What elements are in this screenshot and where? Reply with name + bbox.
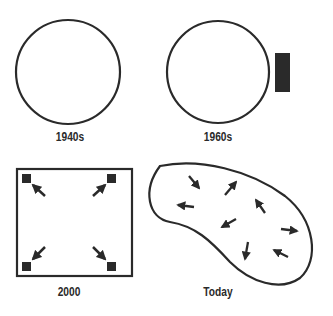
label-2000: 2000 xyxy=(58,285,81,299)
label-today: Today xyxy=(203,285,232,299)
panel-1960s-circle xyxy=(167,21,269,123)
panel-2000-arrows xyxy=(33,185,105,259)
panel-1960s-external-block xyxy=(275,53,290,92)
evolution-diagram xyxy=(0,0,333,316)
panel-1940s-circle xyxy=(16,20,120,124)
label-1940s: 1940s xyxy=(56,130,84,144)
panel-today-arrows xyxy=(178,176,297,259)
label-1960s: 1960s xyxy=(204,130,232,144)
panel-today-blob xyxy=(149,164,312,285)
